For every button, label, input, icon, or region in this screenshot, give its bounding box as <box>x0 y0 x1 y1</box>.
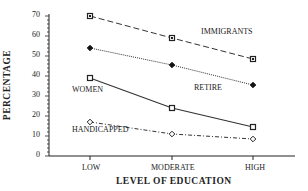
data-point-marker <box>169 131 175 137</box>
y-tick-label: 10 <box>32 130 40 139</box>
y-tick-label: 70 <box>32 10 40 19</box>
y-ticks <box>45 16 49 156</box>
x-tick-label-moderate: MODERATE <box>151 163 195 172</box>
y-tick-label: 40 <box>32 70 40 79</box>
series-label-immigrants: IMMIGRANTS <box>201 27 253 36</box>
y-tick-label: 50 <box>32 50 40 59</box>
x-tick-label-high: HIGH <box>245 163 265 172</box>
data-point-marker <box>250 136 256 142</box>
y-tick-label: 0 <box>36 150 40 159</box>
series-line-women <box>90 78 253 127</box>
y-axis-title: PERCENTAGE <box>2 50 12 120</box>
series-label-women: WOMEN <box>72 85 103 94</box>
data-point-marker <box>170 106 175 111</box>
data-point-marker <box>251 125 256 130</box>
x-ticks <box>90 156 253 160</box>
series-label-handicapped: HANDICAPPED <box>72 125 128 134</box>
y-tick-label: 30 <box>32 90 40 99</box>
x-axis-title: LEVEL OF EDUCATION <box>116 176 232 186</box>
series-label-retire: RETIRE <box>194 83 222 92</box>
y-tick-label: 60 <box>32 30 40 39</box>
data-point-marker <box>88 76 93 81</box>
data-point-marker <box>87 45 93 51</box>
data-point-marker <box>250 82 256 88</box>
data-point-marker <box>87 119 93 125</box>
y-tick-label: 20 <box>32 110 40 119</box>
x-tick-label-low: LOW <box>82 163 100 172</box>
data-point-marker <box>169 62 175 68</box>
